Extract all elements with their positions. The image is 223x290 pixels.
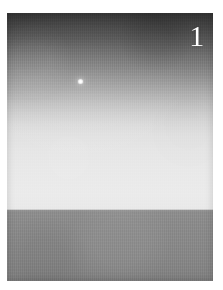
plate-canvas: 1 <box>0 0 223 290</box>
sky-region <box>7 13 213 210</box>
ground-region <box>7 210 213 281</box>
plate-number-label: 1 <box>189 21 204 51</box>
photograph: 1 <box>7 13 213 281</box>
